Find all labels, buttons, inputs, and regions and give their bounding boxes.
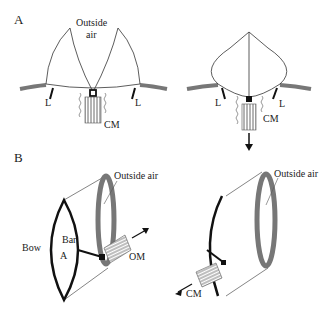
panel-a-label: A	[14, 12, 24, 27]
cm-muscle	[196, 263, 222, 287]
bar-label: Bar	[62, 234, 77, 245]
diagram-canvas: A Outside air L L CM L L CM	[0, 0, 333, 310]
a-label: A	[60, 250, 68, 261]
panel-b-label: B	[14, 150, 23, 165]
outside-air-ring	[257, 174, 275, 266]
outside-air-label-1: Outside	[76, 17, 108, 28]
panel-b-left: Outside air Bow Bar A OM	[22, 170, 159, 300]
panel-a-left: Outside air L L CM	[20, 17, 167, 130]
membrane-left	[20, 85, 46, 89]
panel-b-right: Outside air CM	[175, 168, 319, 299]
cm-muscle	[85, 97, 101, 123]
outside-air-label: Outside air	[274, 168, 319, 179]
label-l-left: L	[45, 97, 51, 108]
bar-node	[90, 90, 96, 96]
outside-air-label: Outside air	[114, 170, 159, 181]
label-cm: CM	[104, 119, 120, 130]
label-l-right: L	[135, 97, 141, 108]
label-l-left: L	[215, 97, 221, 108]
bubble-right	[93, 28, 140, 92]
arrow-icon	[132, 230, 146, 238]
outside-air-label-2: air	[86, 29, 97, 40]
panel-a-right: L L CM	[187, 32, 311, 151]
om-label: OM	[129, 251, 145, 262]
membrane-right	[140, 85, 167, 89]
bar-node	[246, 96, 252, 102]
cm-label: CM	[186, 288, 202, 299]
label-l-right: L	[279, 98, 285, 109]
label-cm: CM	[263, 113, 279, 124]
cm-muscle	[242, 104, 256, 130]
om-muscle	[104, 235, 131, 263]
bow-label: Bow	[22, 242, 42, 253]
diagram-svg: A Outside air L L CM L L CM	[0, 0, 333, 310]
